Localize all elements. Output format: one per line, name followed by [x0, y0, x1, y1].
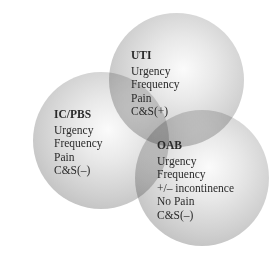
oab-label-block: OAB Urgency Frequency +/– incontinence N…	[157, 139, 234, 223]
oab-item: Urgency	[157, 155, 234, 169]
oab-item: +/– incontinence	[157, 182, 234, 196]
ic-pbs-item: Pain	[54, 151, 103, 165]
ic-pbs-item: Frequency	[54, 137, 103, 151]
ic-pbs-item: Urgency	[54, 124, 103, 138]
uti-item: Frequency	[131, 78, 180, 92]
ic-pbs-title: IC/PBS	[54, 108, 103, 122]
uti-item: Urgency	[131, 65, 180, 79]
ic-pbs-item: C&S(–)	[54, 164, 103, 178]
uti-item: Pain	[131, 92, 180, 106]
uti-label-block: UTI Urgency Frequency Pain C&S(+)	[131, 49, 180, 119]
uti-item: C&S(+)	[131, 105, 180, 119]
oab-item: C&S(–)	[157, 209, 234, 223]
oab-item: Frequency	[157, 168, 234, 182]
oab-title: OAB	[157, 139, 234, 153]
uti-title: UTI	[131, 49, 180, 63]
ic-pbs-label-block: IC/PBS Urgency Frequency Pain C&S(–)	[54, 108, 103, 178]
oab-item: No Pain	[157, 195, 234, 209]
venn-diagram: UTI Urgency Frequency Pain C&S(+) IC/PBS…	[0, 0, 280, 256]
